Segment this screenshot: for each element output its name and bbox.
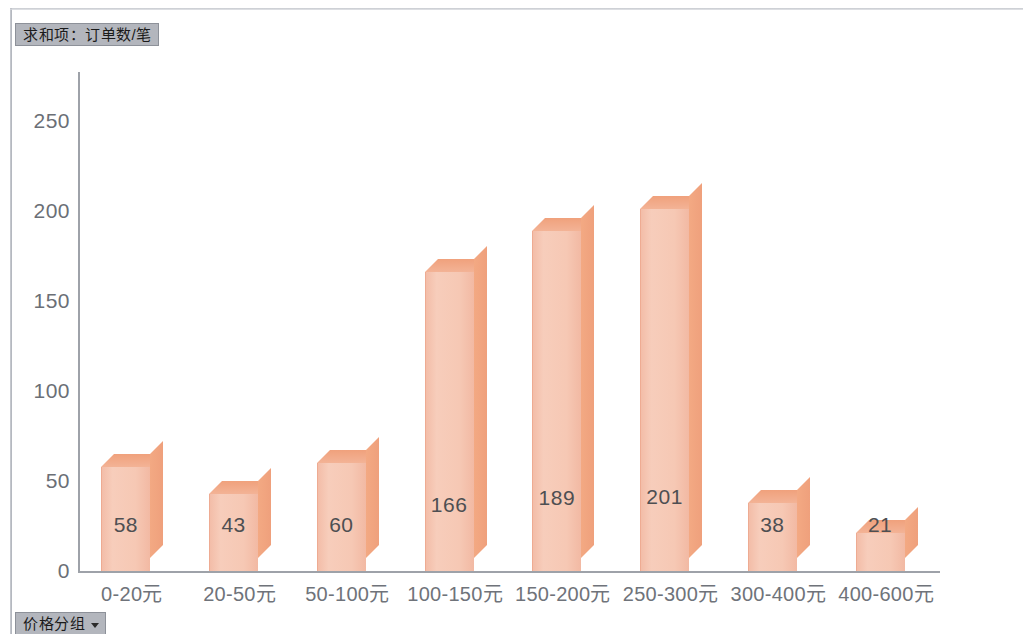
bar-slot-3: 166 — [425, 60, 474, 573]
x-axis-label-7: 400-600元 — [832, 578, 940, 608]
x-axis-line — [78, 571, 940, 573]
bar-value-label-1: 43 — [209, 513, 258, 537]
bar-slot-0: 58 — [101, 60, 150, 573]
bar-3[interactable] — [425, 272, 474, 571]
bar-slot-2: 60 — [317, 60, 366, 573]
category-field-label: 价格分组 — [23, 614, 85, 634]
x-axis-label-2: 50-100元 — [294, 578, 402, 608]
y-axis-tick-labels: 050100150200250 — [0, 0, 70, 634]
bar-side-face-0 — [150, 441, 163, 558]
x-axis-label-0: 0-20元 — [78, 578, 186, 608]
y-axis-tick-100: 100 — [24, 379, 70, 403]
bar-series-group: 5843601661892013821 — [78, 60, 940, 573]
bar-side-face-7 — [905, 507, 918, 558]
y-axis-tick-200: 200 — [24, 199, 70, 223]
bar-side-face-6 — [797, 477, 810, 558]
bar-value-label-3: 166 — [425, 493, 474, 517]
bar-slot-6: 38 — [748, 60, 797, 573]
bar-value-label-6: 38 — [748, 513, 797, 537]
bar-slot-1: 43 — [209, 60, 258, 573]
y-axis-tick-150: 150 — [24, 289, 70, 313]
x-axis-label-1: 20-50元 — [186, 578, 294, 608]
y-axis-tick-50: 50 — [24, 469, 70, 493]
bar-4[interactable] — [532, 231, 581, 571]
bar-side-face-4 — [581, 205, 594, 558]
x-axis-label-5: 250-300元 — [617, 578, 725, 608]
bar-front-face-7 — [856, 533, 905, 571]
pivot-chart-screen: 求和项：订单数/笔 050100150200250 58436016618920… — [0, 0, 1023, 634]
bar-7[interactable] — [856, 533, 905, 571]
bar-front-face-3 — [425, 272, 474, 571]
bar-value-label-4: 189 — [532, 486, 581, 510]
bar-5[interactable] — [640, 209, 689, 571]
bar-value-label-5: 201 — [640, 485, 689, 509]
bar-side-face-2 — [366, 437, 379, 558]
bar-slot-5: 201 — [640, 60, 689, 573]
category-field-button[interactable]: 价格分组 — [15, 612, 106, 634]
y-axis-tick-250: 250 — [24, 109, 70, 133]
page-frame-top-border — [10, 8, 1023, 10]
bar-slot-4: 189 — [532, 60, 581, 573]
x-axis-category-labels: 0-20元20-50元50-100元100-150元150-200元250-30… — [78, 578, 940, 608]
bar-value-label-7: 21 — [856, 513, 905, 537]
bar-front-face-5 — [640, 209, 689, 571]
x-axis-label-4: 150-200元 — [509, 578, 617, 608]
x-axis-label-3: 100-150元 — [401, 578, 509, 608]
bar-side-face-3 — [474, 246, 487, 558]
bar-slot-7: 21 — [856, 60, 905, 573]
y-axis-tick-0: 0 — [24, 559, 70, 583]
bar-value-label-2: 60 — [317, 513, 366, 537]
bar-side-face-5 — [689, 183, 702, 558]
dropdown-caret-icon[interactable] — [91, 623, 99, 628]
bar-front-face-4 — [532, 231, 581, 571]
bar-value-label-0: 58 — [101, 513, 150, 537]
x-axis-label-6: 300-400元 — [725, 578, 833, 608]
bar-side-face-1 — [258, 468, 271, 558]
